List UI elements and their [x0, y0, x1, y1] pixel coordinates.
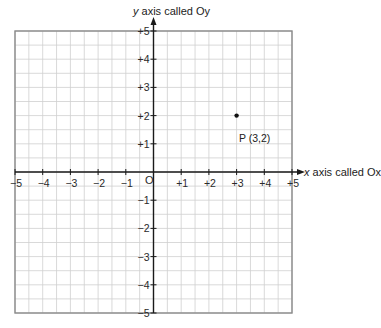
x-tick-label: +4: [259, 178, 271, 189]
y-tick-label: +2: [138, 111, 150, 122]
x-tick-label: +1: [176, 178, 188, 189]
y-tick-label: −5: [138, 308, 150, 319]
x-tick-label: +3: [232, 178, 244, 189]
y-axis-arrow-icon: [151, 17, 157, 25]
y-tick-label: −3: [138, 252, 150, 263]
y-axis-title-text: axis called Oy: [142, 5, 210, 17]
point-p-label: P (3,2): [239, 133, 270, 144]
x-tick-label: −5: [10, 178, 22, 189]
origin-label: O: [145, 175, 154, 186]
y-tick-label: +3: [138, 82, 150, 93]
x-tick-label: +5: [287, 178, 299, 189]
x-tick-label: −2: [93, 178, 105, 189]
x-axis-title: x axis called Ox: [304, 167, 381, 178]
x-axis-title-text: axis called Ox: [313, 166, 381, 178]
y-tick-label: +5: [138, 26, 150, 37]
x-tick-label: −3: [65, 178, 77, 189]
x-tick-label: −4: [38, 178, 50, 189]
y-tick-label: −1: [138, 195, 150, 206]
y-tick-label: +1: [138, 139, 150, 150]
point-p-marker: [234, 113, 238, 117]
x-tick-label: +2: [204, 178, 216, 189]
y-tick-label: −2: [138, 223, 150, 234]
y-axis-var: y: [133, 5, 139, 17]
x-axis-var: x: [304, 166, 310, 178]
y-tick-label: +4: [138, 54, 150, 65]
y-tick-label: −4: [138, 280, 150, 291]
y-axis-title: y axis called Oy: [133, 6, 210, 17]
x-tick-label: −1: [121, 178, 133, 189]
